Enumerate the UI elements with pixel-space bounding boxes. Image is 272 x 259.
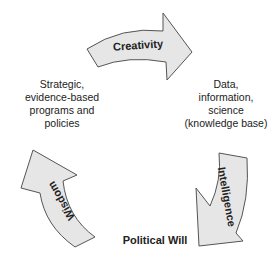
knowledge-base-text: Data, information, science (knowledge ba… — [178, 78, 272, 130]
text-line: programs and — [2, 104, 122, 117]
text-line: Data, — [178, 78, 272, 91]
political-will-label: Political Will — [100, 234, 210, 247]
text-line: science — [178, 104, 272, 117]
intelligence-arrow: Intelligence — [196, 153, 248, 246]
creativity-arrow: Creativity — [87, 13, 192, 80]
text-line: Strategic, — [2, 78, 122, 91]
text-line: (knowledge base) — [178, 117, 272, 130]
text-line: evidence-based — [2, 91, 122, 104]
text-line: information, — [178, 91, 272, 104]
strategic-policies-text: Strategic, evidence-based programs and p… — [2, 78, 122, 130]
text-line: policies — [2, 117, 122, 130]
wisdom-arrow: Wisdom — [21, 150, 95, 247]
